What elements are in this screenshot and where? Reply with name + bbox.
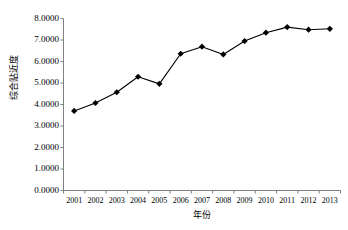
x-tick-label: 2008 — [213, 196, 234, 205]
data-point-marker — [71, 108, 77, 114]
data-point-marker — [92, 100, 98, 106]
x-tick-label: 2011 — [277, 196, 298, 205]
x-tick-label: 2005 — [149, 196, 170, 205]
chart-container: 综合贴近度 0.00001.00002.00003.00004.00005.00… — [0, 0, 348, 230]
data-point-marker — [284, 24, 290, 30]
data-point-marker — [305, 27, 311, 33]
data-point-markers — [71, 24, 333, 114]
data-point-marker — [220, 51, 226, 57]
x-tick-label: 2012 — [298, 196, 319, 205]
x-tick-label: 2004 — [127, 196, 148, 205]
x-axis-title: 年份 — [63, 210, 341, 220]
x-tick-label: 2007 — [191, 196, 212, 205]
x-tick-label: 2001 — [64, 196, 85, 205]
data-point-marker — [199, 44, 205, 50]
data-point-marker — [242, 38, 248, 44]
x-tick-label: 2006 — [170, 196, 191, 205]
x-tick-label: 2010 — [255, 196, 276, 205]
data-point-marker — [263, 30, 269, 36]
data-point-marker — [327, 26, 333, 32]
x-tick-label: 2013 — [319, 196, 340, 205]
data-line — [74, 27, 330, 111]
x-tick-label: 2009 — [234, 196, 255, 205]
x-tick-label: 2003 — [106, 196, 127, 205]
x-tick-label: 2002 — [85, 196, 106, 205]
